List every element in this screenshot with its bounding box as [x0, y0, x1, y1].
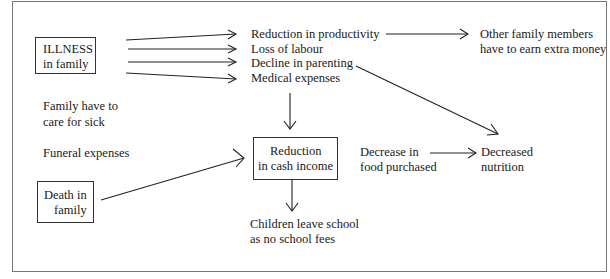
cash-income-line2: in cash income [258, 159, 333, 173]
decrease-food-line2: food purchased [360, 160, 437, 174]
death-line1: Death in [44, 188, 87, 202]
node-loss-labour: Loss of labour [251, 42, 323, 56]
children-line2: as no school fees [250, 232, 335, 246]
decrease-food-line1: Decrease in [360, 145, 419, 159]
cash-income-line1: Reduction [270, 144, 321, 158]
node-medical-expenses: Medical expenses [251, 71, 340, 85]
arrow-parenting-nutrition [356, 66, 498, 134]
family-care-line1: Family have to [43, 99, 118, 113]
illness-line2: in family [43, 57, 88, 71]
death-line2: family [54, 203, 87, 217]
node-decline-parenting: Decline in parenting [251, 56, 353, 70]
family-care-line2: care for sick [43, 115, 105, 129]
arrow-death-income [101, 158, 244, 200]
other-family-line1: Other family members [480, 27, 593, 41]
nutrition-line1: Decreased [481, 145, 533, 159]
node-funeral: Funeral expenses [43, 146, 129, 160]
children-line1: Children leave school [250, 217, 359, 231]
arrow-illness-medical [126, 73, 236, 79]
node-reduction-productivity: Reduction in productivity [251, 27, 379, 41]
other-family-line2: have to earn extra money [480, 42, 606, 56]
nutrition-line2: nutrition [481, 160, 524, 174]
arrow-illness-productivity [126, 34, 236, 40]
illness-line1: ILLNESS [43, 42, 93, 56]
